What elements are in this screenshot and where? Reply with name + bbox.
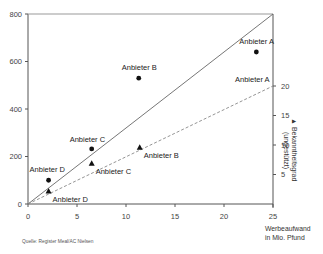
x-tick-label: 5 bbox=[75, 212, 79, 221]
scatter-chart: 020040060080005101520255101520Anbieter A… bbox=[0, 0, 323, 254]
x-axis-label-line2: in Mio. Pfund bbox=[265, 233, 311, 242]
y-tick-label-left: 0 bbox=[18, 200, 22, 209]
triangle-marker bbox=[137, 144, 143, 150]
y-tick-label-right: 20 bbox=[281, 82, 289, 91]
x-tick-label: 25 bbox=[269, 212, 277, 221]
right-axis-label: ▲ Bekanntheitsgrad (ungestützt) bbox=[282, 118, 298, 181]
x-tick-label: 10 bbox=[122, 212, 130, 221]
circle-marker bbox=[136, 76, 141, 81]
x-tick-label: 20 bbox=[220, 212, 228, 221]
triangle-marker bbox=[46, 188, 52, 194]
x-tick-label: 0 bbox=[26, 212, 30, 221]
triangle-point-label: Anbieter A bbox=[235, 75, 270, 84]
solid-reference-line bbox=[28, 14, 273, 204]
y-tick-label-left: 400 bbox=[9, 105, 22, 114]
y-tick-label-left: 200 bbox=[9, 152, 22, 161]
circle-marker bbox=[46, 178, 51, 183]
right-axis-label-line1: ▲ Bekanntheitsgrad bbox=[290, 118, 298, 181]
circle-point-label: Anbieter C bbox=[70, 135, 106, 144]
triangle-legend-icon: ▲ bbox=[291, 118, 298, 127]
source-note: Quelle: Register Meal/AC Nielsen bbox=[22, 239, 93, 244]
right-axis-label-line2: (ungestützt) bbox=[282, 118, 290, 181]
x-tick-label: 15 bbox=[171, 212, 179, 221]
circle-point-label: Anbieter A bbox=[239, 37, 274, 46]
x-axis-label-line1: Werbeaufwand bbox=[265, 224, 311, 233]
circle-marker bbox=[254, 50, 259, 55]
triangle-point-label: Anbieter D bbox=[53, 195, 89, 204]
triangle-point-label: Anbieter B bbox=[144, 151, 179, 160]
dashed-reference-line bbox=[28, 86, 273, 204]
y-tick-label-left: 600 bbox=[9, 57, 22, 66]
x-axis-label: Werbeaufwand in Mio. Pfund bbox=[265, 224, 311, 242]
circle-marker bbox=[89, 147, 94, 152]
y-tick-label-left: 800 bbox=[9, 10, 22, 19]
circle-point-label: Anbieter B bbox=[122, 63, 157, 72]
circle-point-label: Anbieter D bbox=[30, 165, 66, 174]
triangle-marker bbox=[89, 160, 95, 166]
triangle-point-label: Anbieter C bbox=[96, 167, 132, 176]
